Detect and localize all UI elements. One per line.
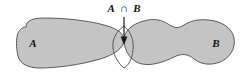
intersection-label: A ∩ B	[106, 2, 140, 14]
intersection-label-left: A	[106, 2, 114, 14]
intersection-label-right: B	[132, 2, 140, 14]
venn-diagram-canvas: A B A ∩ B	[0, 0, 243, 74]
venn-diagram-container: A B A ∩ B	[0, 0, 243, 74]
set-a-label: A	[28, 37, 36, 49]
intersection-operator-icon: ∩	[120, 2, 128, 14]
set-b-label: B	[211, 37, 219, 49]
